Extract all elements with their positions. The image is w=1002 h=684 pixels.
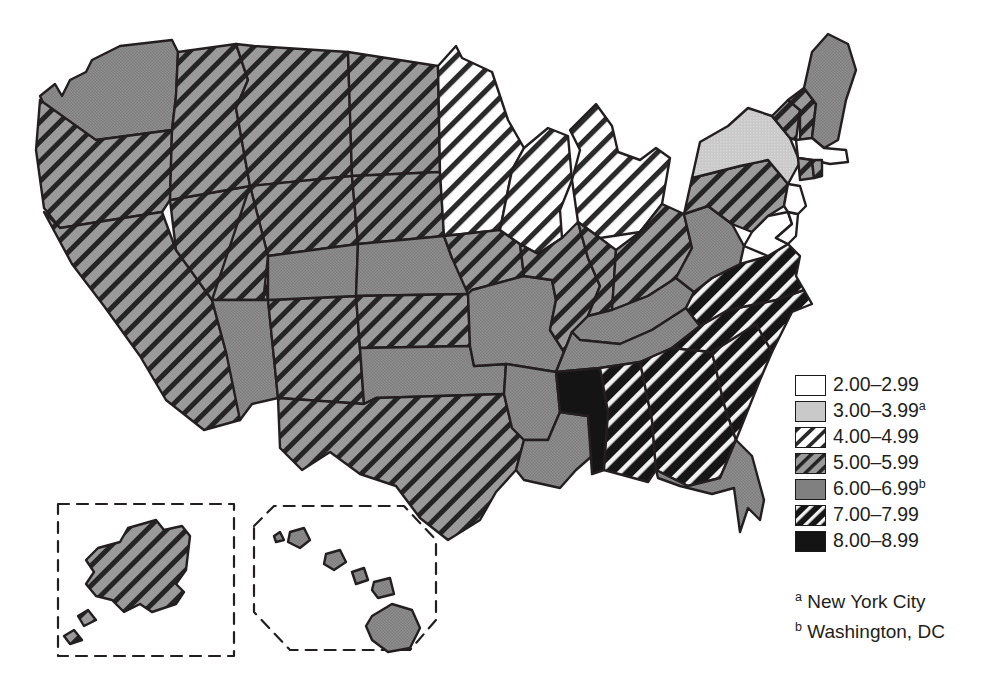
legend-label-0: 2.00–2.99 (833, 375, 919, 395)
alaska-inset (58, 504, 234, 656)
state-SD (352, 172, 444, 244)
state-TX (278, 394, 524, 540)
map-legend: 2.00–2.99 3.00–3.99a 4.00–4.99 5.00–5.99… (795, 372, 995, 554)
legend-note-marker-a: a (919, 399, 926, 413)
state-ND (348, 52, 440, 176)
state-NM (268, 296, 364, 404)
legend-swatch-mid-gray (795, 479, 826, 500)
state-MO (468, 276, 564, 372)
state-AK (64, 520, 190, 644)
legend-label-1: 3.00–3.99 (833, 399, 919, 421)
legend-swatch-gray-hatch (795, 453, 826, 474)
state-NJ (784, 184, 806, 214)
legend-label-2: 4.00–4.99 (833, 427, 919, 447)
legend-item-4[interactable]: 6.00–6.99b (795, 476, 995, 502)
footnote-marker-b: b (795, 620, 802, 634)
legend-label-4: 6.00–6.99 (833, 477, 919, 499)
figure-canvas: 2.00–2.99 3.00–3.99a 4.00–4.99 5.00–5.99… (0, 0, 1002, 684)
footnotes: a New York City b Washington, DC (795, 592, 1002, 652)
legend-label-3: 5.00–5.99 (833, 453, 919, 473)
footnote-a: a New York City (795, 592, 1002, 611)
legend-item-3[interactable]: 5.00–5.99 (795, 450, 995, 476)
state-RI (812, 160, 822, 178)
legend-item-5[interactable]: 7.00–7.99 (795, 502, 995, 528)
state-HI (274, 528, 420, 652)
state-ME (804, 34, 856, 148)
legend-item-2[interactable]: 4.00–4.99 (795, 424, 995, 450)
footnote-marker-a: a (795, 590, 802, 604)
legend-swatch-black-hatch (795, 505, 826, 526)
footnote-b: b Washington, DC (795, 622, 1002, 641)
us-choropleth-map (0, 0, 1002, 684)
legend-label-6: 8.00–8.99 (833, 531, 919, 551)
state-MT (236, 44, 352, 186)
state-WY (250, 176, 358, 256)
legend-swatch-light-gray (795, 401, 826, 422)
legend-item-0[interactable]: 2.00–2.99 (795, 372, 995, 398)
legend-item-6[interactable]: 8.00–8.99 (795, 528, 995, 554)
footnote-text-a: New York City (807, 591, 925, 612)
state-KS (356, 294, 470, 348)
hawaii-inset (254, 506, 436, 652)
legend-item-1[interactable]: 3.00–3.99a (795, 398, 995, 424)
legend-swatch-white (795, 375, 826, 396)
footnote-text-b: Washington, DC (807, 621, 945, 642)
legend-note-marker-b: b (919, 477, 926, 491)
legend-label-5: 7.00–7.99 (833, 505, 919, 525)
legend-swatch-white-hatch (795, 427, 826, 448)
legend-swatch-black (795, 531, 826, 552)
